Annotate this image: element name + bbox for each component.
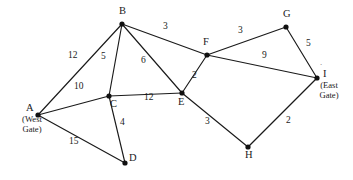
edge-weight-e-f: 2	[192, 71, 197, 81]
edge-weight-b-c: 5	[101, 52, 106, 62]
vertex-dot-d	[122, 160, 127, 165]
vertex-dot-g	[283, 24, 288, 29]
edge-weight-e-h: 3	[205, 117, 210, 127]
edge-h-i	[248, 78, 317, 147]
edge-weight-g-i: 5	[306, 39, 311, 49]
edge-f-g	[207, 27, 286, 55]
edge-weight-f-g: 3	[238, 26, 243, 36]
vertex-dot-f	[204, 52, 209, 57]
edge-weight-h-i: 2	[286, 116, 291, 126]
edge-weight-f-i: 9	[262, 51, 267, 61]
vertex-dot-b	[119, 21, 124, 26]
vertex-label-e: E	[178, 96, 184, 107]
vertex-label-f: F	[203, 36, 209, 47]
gate-note-line1: (West	[14, 114, 50, 124]
gate-note-line2: Gate)	[14, 124, 50, 134]
stray-tick-mark-icon: ´	[320, 63, 322, 69]
gate-note-line2: Gate)	[311, 90, 347, 100]
vertex-label-g: G	[283, 8, 291, 19]
edge-a-d	[38, 115, 125, 163]
edge-g-i	[286, 27, 317, 78]
edges-group	[38, 24, 317, 163]
vertex-label-c: C	[110, 98, 117, 109]
edge-e-h	[182, 93, 248, 147]
vertex-label-b: B	[119, 5, 126, 16]
vertex-label-d: D	[129, 152, 137, 163]
gate-note-line1: (East	[311, 80, 347, 90]
vertex-label-a: A	[26, 102, 34, 113]
edge-b-c	[109, 24, 122, 96]
vertex-dot-e	[179, 90, 184, 95]
graph-canvas	[0, 0, 353, 180]
edge-weight-a-c: 10	[74, 82, 84, 92]
weighted-graph-figure: 121015563412233952A(WestGate)BCDEFGHI(Ea…	[0, 0, 353, 180]
gate-note-i: (EastGate)	[311, 80, 347, 100]
vertex-label-i: I	[323, 68, 327, 79]
edge-weight-b-f: 3	[163, 22, 168, 32]
edge-a-c	[38, 96, 109, 115]
edge-weight-c-d: 4	[120, 118, 125, 128]
edge-weight-c-e: 12	[144, 93, 154, 103]
edge-weight-a-b: 12	[68, 51, 78, 61]
gate-note-a: (WestGate)	[14, 114, 50, 134]
vertex-label-h: H	[245, 149, 253, 160]
edge-weight-b-e: 6	[141, 56, 146, 66]
edge-weight-a-d: 15	[69, 137, 79, 147]
